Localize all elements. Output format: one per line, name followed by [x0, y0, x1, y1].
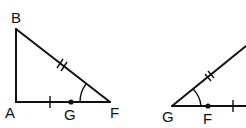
side-hypotenuse: [172, 46, 246, 106]
point-f-dot: [205, 103, 210, 108]
label-g: G: [64, 106, 76, 123]
left-triangle: B A G F: [5, 9, 119, 123]
geometry-figure: B A G F G F: [0, 0, 246, 128]
label-b: B: [11, 9, 21, 26]
label-f: F: [110, 104, 119, 121]
side-bf: [16, 29, 110, 102]
label-f: F: [203, 110, 212, 127]
label-a: A: [5, 104, 15, 121]
label-g: G: [162, 108, 174, 125]
point-g-dot: [68, 99, 73, 104]
angle-arc-f: [80, 84, 86, 102]
right-triangle: G F: [162, 46, 246, 127]
angle-arc-g: [193, 89, 201, 106]
